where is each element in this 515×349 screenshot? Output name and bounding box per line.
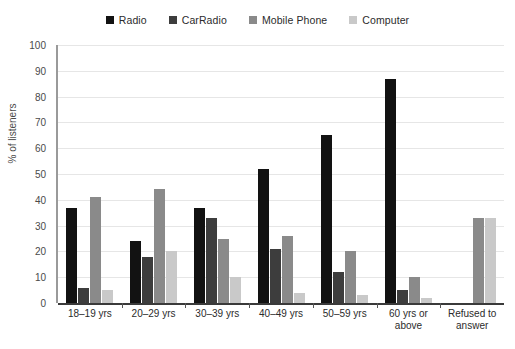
bar-carradio[interactable]	[206, 218, 217, 303]
legend-item-carradio[interactable]: CarRadio	[169, 14, 227, 26]
legend-item-computer[interactable]: Computer	[349, 14, 409, 26]
bar-groups	[58, 45, 504, 303]
bar-carradio[interactable]	[142, 257, 153, 303]
bar-group	[249, 45, 313, 303]
y-tick-label: 10	[35, 272, 46, 283]
bar-carradio[interactable]	[333, 272, 344, 303]
bar-radio[interactable]	[130, 241, 141, 303]
y-tick-label: 50	[35, 169, 46, 180]
legend-swatch-icon	[249, 16, 257, 24]
bar-mobile-phone[interactable]	[154, 189, 165, 303]
y-tick-label: 90	[35, 65, 46, 76]
x-axis-label: 18–19 yrs	[58, 308, 122, 331]
y-tick-label: 70	[35, 117, 46, 128]
x-axis-label: Refused to answer	[440, 308, 504, 331]
legend-label: Mobile Phone	[262, 14, 327, 26]
legend-label: CarRadio	[182, 14, 227, 26]
bar-mobile-phone[interactable]	[473, 218, 484, 303]
legend-swatch-icon	[349, 16, 357, 24]
chart-legend: RadioCarRadioMobile PhoneComputer	[0, 14, 515, 26]
bar-group	[440, 45, 504, 303]
y-axis-title: % of listeners	[7, 74, 18, 194]
bar-radio[interactable]	[194, 208, 205, 303]
x-axis-label: 20–29 yrs	[122, 308, 186, 331]
bar-group	[185, 45, 249, 303]
bar-computer[interactable]	[485, 218, 496, 303]
x-axis-label: 40–49 yrs	[249, 308, 313, 331]
legend-label: Computer	[362, 14, 409, 26]
x-axis-labels: 18–19 yrs20–29 yrs30–39 yrs40–49 yrs50–5…	[58, 308, 504, 331]
plot-area	[58, 45, 504, 303]
bar-group	[122, 45, 186, 303]
y-tick-label: 80	[35, 91, 46, 102]
x-axis-label: 30–39 yrs	[185, 308, 249, 331]
bar-group	[377, 45, 441, 303]
y-tick-label: 100	[29, 40, 46, 51]
y-tick-label: 60	[35, 143, 46, 154]
legend-swatch-icon	[106, 16, 114, 24]
bar-radio[interactable]	[66, 208, 77, 303]
bar-group	[313, 45, 377, 303]
bar-chart: RadioCarRadioMobile PhoneComputer 010203…	[0, 0, 515, 349]
bar-computer[interactable]	[102, 290, 113, 303]
y-tick-label: 20	[35, 246, 46, 257]
bar-computer[interactable]	[230, 277, 241, 303]
bar-computer[interactable]	[357, 295, 368, 303]
bar-mobile-phone[interactable]	[218, 239, 229, 304]
bar-computer[interactable]	[294, 293, 305, 303]
bar-carradio[interactable]	[397, 290, 408, 303]
bar-radio[interactable]	[385, 79, 396, 303]
x-axis-label: 60 yrs or above	[377, 308, 441, 331]
y-tick-label: 30	[35, 220, 46, 231]
legend-swatch-icon	[169, 16, 177, 24]
y-tick-label: 0	[40, 298, 46, 309]
bar-radio[interactable]	[258, 169, 269, 303]
bar-mobile-phone[interactable]	[282, 236, 293, 303]
legend-label: Radio	[119, 14, 147, 26]
bar-mobile-phone[interactable]	[345, 251, 356, 303]
bar-computer[interactable]	[166, 251, 177, 303]
bar-mobile-phone[interactable]	[409, 277, 420, 303]
bar-mobile-phone[interactable]	[90, 197, 101, 303]
bar-carradio[interactable]	[270, 249, 281, 303]
x-axis-label: 50–59 yrs	[313, 308, 377, 331]
bar-carradio[interactable]	[78, 288, 89, 303]
legend-item-radio[interactable]: Radio	[106, 14, 147, 26]
bar-radio[interactable]	[321, 135, 332, 303]
y-tick-label: 40	[35, 194, 46, 205]
bar-group	[58, 45, 122, 303]
legend-item-mobile-phone[interactable]: Mobile Phone	[249, 14, 327, 26]
